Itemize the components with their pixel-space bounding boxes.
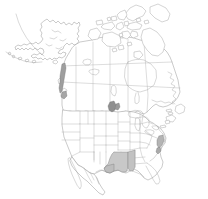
anticosti-island (166, 109, 172, 112)
axel-heiberg-island (117, 10, 127, 20)
greenland-edge (150, 4, 170, 22)
melville-island (101, 22, 115, 30)
devon-island (127, 22, 142, 30)
region-canada-mainland (58, 37, 185, 122)
prince-edward-island (168, 112, 173, 115)
arctic-islet-4 (119, 33, 123, 37)
long-island (160, 125, 166, 128)
ellesmere-island (125, 5, 146, 21)
bathurst-island (116, 22, 124, 30)
cape-cod (165, 120, 170, 124)
aleutian-island-1 (12, 55, 15, 58)
arctic-islet-1 (107, 17, 111, 21)
map-figure: North America outline map Map of North A… (0, 0, 208, 199)
prince-patrick-island (96, 20, 103, 25)
newfoundland-island (175, 104, 185, 114)
king-william-island (118, 45, 124, 50)
somerset-island (130, 31, 138, 38)
ellef-ringnes-island (111, 16, 117, 21)
gulf-south-highlight-east (128, 150, 135, 171)
cornwallis-island (124, 21, 129, 26)
kodiak-island (53, 60, 58, 64)
arctic-islet-3 (144, 20, 149, 24)
north-america-map (0, 0, 208, 199)
